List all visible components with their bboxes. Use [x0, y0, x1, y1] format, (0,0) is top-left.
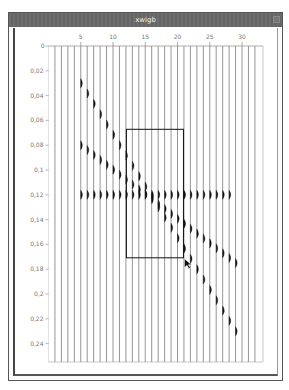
- wiggle-lobe: [229, 316, 231, 325]
- y-tick-label: 0,2: [34, 290, 44, 297]
- wiggle-lobe: [94, 190, 96, 199]
- wiggle-lobe: [132, 190, 134, 199]
- y-tick-label: 0,06: [30, 116, 44, 123]
- wiggle-lobe: [223, 190, 225, 199]
- wiggle-lobe: [197, 265, 199, 274]
- wiggle-lobe: [184, 219, 186, 228]
- wiggle-lobe: [158, 190, 160, 199]
- wiggle-lobe: [100, 110, 102, 119]
- x-tick-label: 20: [174, 33, 182, 40]
- wiggle-lobe: [223, 306, 225, 315]
- x-tick-label: 25: [206, 33, 214, 40]
- wiggle-lobe: [81, 141, 83, 150]
- wiggle-lobe: [107, 190, 109, 199]
- wiggle-lobe: [184, 190, 186, 199]
- y-tick-label: 0,16: [30, 240, 44, 247]
- wiggle-lobe: [139, 172, 141, 181]
- wiggle-lobe: [113, 165, 115, 174]
- wiggle-lobe: [145, 190, 147, 199]
- wiggle-lobe: [229, 190, 231, 199]
- wiggle-lobe: [178, 234, 180, 243]
- y-tick-label: 0,14: [30, 216, 44, 223]
- wiggle-lobe: [203, 190, 205, 199]
- wiggle-lobe: [113, 130, 115, 139]
- wiggle-lobe: [165, 190, 167, 199]
- wiggle-lobe: [100, 155, 102, 164]
- wiggle-lobe: [171, 209, 173, 218]
- wiggle-lobe: [190, 254, 192, 263]
- y-tick-label: 0,18: [30, 265, 44, 272]
- wiggle-lobe: [203, 275, 205, 284]
- x-tick-label: 5: [79, 33, 83, 40]
- wiggle-lobe: [165, 213, 167, 222]
- wiggle-lobe: [94, 99, 96, 108]
- wiggle-lobe: [145, 182, 147, 191]
- wiggle-lobe: [190, 224, 192, 233]
- wiggle-lobe: [223, 249, 225, 258]
- wiggle-lobe: [236, 327, 238, 336]
- wiggle-lobe: [87, 146, 89, 155]
- wiggle-lobe: [229, 254, 231, 263]
- wiggle-lobe: [107, 120, 109, 129]
- x-tick-label: 15: [141, 33, 149, 40]
- y-tick-label: 0: [41, 42, 45, 49]
- wiggle-lobe: [216, 190, 218, 199]
- wiggle-lobe: [210, 239, 212, 248]
- wiggle-lobe: [119, 170, 121, 179]
- wiggle-lobe: [178, 214, 180, 223]
- wiggle-plot[interactable]: 5101520253000,020,040,060,080,10,120,140…: [0, 0, 289, 390]
- y-tick-label: 0,24: [30, 340, 44, 347]
- wiggle-lobe: [171, 223, 173, 232]
- wiggle-lobe: [190, 190, 192, 199]
- wiggle-lobe: [94, 151, 96, 160]
- wiggle-lobe: [107, 160, 109, 169]
- wiggle-lobe: [197, 229, 199, 238]
- wiggle-lobe: [81, 190, 83, 199]
- wiggle-lobe: [210, 190, 212, 199]
- wiggle-lobe: [197, 190, 199, 199]
- wiggle-lobe: [132, 180, 134, 189]
- wiggle-lobe: [236, 259, 238, 268]
- wiggle-lobe: [100, 190, 102, 199]
- y-tick-label: 0,08: [30, 141, 44, 148]
- wiggle-lobe: [210, 285, 212, 294]
- wiggle-lobe: [184, 244, 186, 253]
- wiggle-lobe: [113, 190, 115, 199]
- wiggle-lobe: [171, 190, 173, 199]
- wiggle-lobe: [87, 89, 89, 98]
- wiggle-lobe: [203, 234, 205, 243]
- wiggle-lobe: [165, 205, 167, 214]
- y-tick-label: 0,12: [30, 191, 44, 198]
- wiggle-lobe: [178, 190, 180, 199]
- y-tick-label: 0,1: [34, 166, 44, 173]
- wiggle-lobe: [216, 244, 218, 253]
- x-tick-label: 30: [238, 33, 246, 40]
- wiggle-lobe: [87, 190, 89, 199]
- y-tick-label: 0,22: [30, 315, 44, 322]
- wiggle-lobe: [216, 296, 218, 305]
- wiggle-lobe: [81, 79, 83, 88]
- wiggle-lobe: [132, 161, 134, 170]
- wiggle-lobe: [119, 141, 121, 150]
- wiggle-lobe: [119, 190, 121, 199]
- zoom-selection-box[interactable]: [126, 129, 183, 257]
- y-tick-label: 0,02: [30, 67, 44, 74]
- y-tick-label: 0,04: [30, 92, 44, 99]
- x-tick-label: 10: [109, 33, 117, 40]
